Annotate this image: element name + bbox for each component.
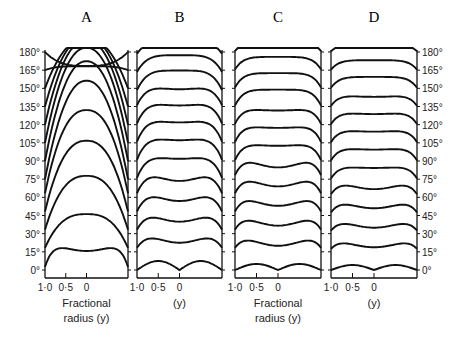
curve-45deg (137, 197, 222, 211)
curve-30deg (137, 218, 222, 230)
curve-0deg (331, 265, 417, 270)
panel-title: A (81, 9, 92, 25)
curve-90deg (331, 149, 417, 160)
curve-180deg (235, 48, 321, 51)
curve-60deg (235, 182, 321, 194)
panel-title: C (273, 9, 283, 25)
y-tick-label-right: 0° (422, 265, 432, 276)
curve-135deg (331, 96, 417, 106)
curve-45deg (235, 201, 321, 212)
y-tick-label-left: 165° (19, 65, 40, 76)
x-tick-label: 1·0 (38, 282, 53, 293)
curve-75deg (235, 163, 321, 175)
y-tick-label-left: 45° (25, 211, 40, 222)
curve-60deg (331, 186, 417, 195)
curve-150deg (235, 73, 321, 87)
curve-120deg (137, 105, 222, 124)
curve-105deg (235, 127, 321, 142)
curve-90deg (235, 145, 321, 160)
curve-150deg (137, 71, 222, 91)
curve-45deg (331, 205, 417, 213)
curve-150deg (331, 77, 417, 88)
y-tick-label-right: 120° (422, 120, 443, 131)
y-tick-label-right: 150° (422, 83, 443, 94)
curve-135deg (137, 89, 222, 106)
y-tick-label-right: 165° (422, 65, 443, 76)
panel-title: D (369, 9, 380, 25)
curve-90deg (137, 140, 222, 160)
x-tick-label: 0 (371, 282, 377, 293)
y-tick-label-right: 60° (422, 192, 437, 203)
x-tick-label: 0 (275, 282, 281, 293)
y-tick-label-left: 0° (30, 265, 40, 276)
y-tick-label-left: 150° (19, 83, 40, 94)
x-tick-label: 0 (84, 282, 90, 293)
y-tick-label-right: 45° (422, 211, 437, 222)
curve-105deg (331, 131, 417, 142)
curve-30deg (45, 176, 128, 230)
y-tick-label-left: 90° (25, 156, 40, 167)
x-axis-label: Fractional (254, 297, 302, 309)
curve-75deg (331, 168, 417, 179)
x-tick-label: 1·0 (324, 282, 339, 293)
y-tick-label-left: 60° (25, 192, 40, 203)
curve-180deg (331, 48, 417, 51)
curve-60deg (137, 177, 222, 193)
figure: ABCD 0°0°15°15°30°30°45°45°60°60°75°75°9… (0, 0, 462, 338)
curve-165deg (235, 57, 321, 70)
panel-c (232, 48, 324, 278)
panel-title: B (174, 9, 184, 25)
y-tick-label-left: 75° (25, 174, 40, 185)
curve-30deg (235, 221, 321, 230)
x-axis-label: (y) (368, 297, 381, 309)
y-tick-label-right: 30° (422, 229, 437, 240)
x-axis-label: (y) (173, 297, 186, 309)
y-tick-label-right: 15° (422, 247, 437, 258)
curve-120deg (235, 110, 321, 124)
curve-75deg (137, 158, 222, 178)
curve-180deg (137, 48, 222, 54)
curve-0deg (235, 264, 321, 270)
panel-d (328, 48, 420, 278)
curve-0deg (45, 248, 128, 267)
x-tick-label: 0·5 (59, 282, 74, 293)
y-tick-label-left: 15° (25, 247, 40, 258)
x-tick-label: 0 (177, 282, 183, 293)
x-tick-label: 0·5 (249, 282, 264, 293)
curve-15deg (331, 243, 417, 248)
x-tick-label: 0·5 (345, 282, 360, 293)
panel-a (42, 48, 131, 278)
y-tick-label-left: 30° (25, 229, 40, 240)
curve-135deg (235, 90, 321, 106)
curve-15deg (137, 238, 222, 247)
y-tick-label-left: 180° (19, 47, 40, 58)
curve-120deg (331, 114, 417, 125)
curve-15deg (45, 214, 128, 248)
x-tick-label: 0·5 (151, 282, 166, 293)
y-tick-label-right: 135° (422, 102, 443, 113)
curve-75deg (45, 81, 128, 180)
y-tick-label-left: 120° (19, 120, 40, 131)
x-axis-label: Fractional (62, 297, 110, 309)
curve-165deg (137, 55, 222, 72)
y-tick-label-left: 135° (19, 102, 40, 113)
curve-15deg (235, 241, 321, 248)
x-tick-label: 1·0 (130, 282, 145, 293)
curve-165deg (331, 60, 417, 69)
x-axis-label: radius (y) (64, 312, 110, 324)
curve-105deg (137, 122, 222, 142)
x-tick-label: 1·0 (228, 282, 243, 293)
curve-30deg (331, 224, 417, 231)
y-tick-label-left: 105° (19, 138, 40, 149)
curve-0deg (137, 261, 222, 270)
x-axis-label: radius (y) (255, 312, 301, 324)
panel-b (134, 48, 225, 278)
y-tick-label-right: 105° (422, 138, 443, 149)
y-tick-label-right: 75° (422, 174, 437, 185)
y-tick-label-right: 90° (422, 156, 437, 167)
y-tick-label-right: 180° (422, 47, 443, 58)
